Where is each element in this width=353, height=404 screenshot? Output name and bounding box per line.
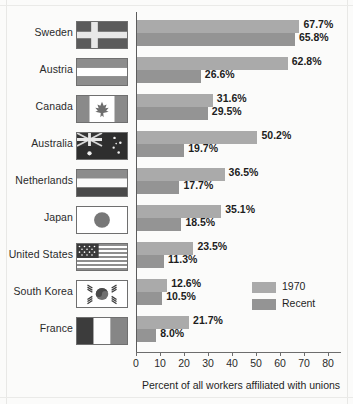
union-membership-bar-chart: Sweden 67.7%65.8%Austria 62.8%26.6%Canad…	[0, 0, 353, 404]
bar-value-1970: 35.1%	[225, 203, 255, 215]
legend-label-recent: Recent	[282, 297, 315, 309]
bar-recent	[137, 255, 164, 268]
bar-value-1970: 36.5%	[229, 166, 259, 178]
bar-value-1970: 23.5%	[197, 240, 227, 252]
x-tick-label: 40	[226, 357, 238, 369]
x-axis-title: Percent of all workers affiliated with u…	[136, 379, 346, 391]
chart-row: France 21.7%8.0%	[0, 312, 353, 349]
bar-value-recent: 29.5%	[212, 105, 242, 117]
chart-row: Netherlands 36.5%17.7%	[0, 164, 353, 201]
country-label: Sweden	[0, 26, 73, 38]
chart-row: Australia 50.2%19.7%	[0, 127, 353, 164]
chart-row: Japan 35.1%18.5%	[0, 201, 353, 238]
bar-1970	[137, 20, 299, 33]
bar-recent	[137, 144, 184, 157]
x-tick	[280, 352, 281, 356]
x-tick-label: 60	[274, 357, 286, 369]
bar-recent	[137, 218, 181, 231]
bar-value-recent: 26.6%	[205, 68, 235, 80]
chart-row: United States 23.5%11.3%	[0, 238, 353, 275]
bar-recent	[137, 329, 156, 342]
bar-recent	[137, 181, 179, 194]
x-tick	[136, 352, 137, 356]
bar-value-recent: 18.5%	[185, 216, 215, 228]
bar-value-1970: 62.8%	[292, 55, 322, 67]
country-label: Australia	[0, 137, 73, 149]
bar-recent	[137, 107, 208, 120]
x-tick	[184, 352, 185, 356]
country-label: Netherlands	[0, 174, 73, 186]
flag-canada-icon	[76, 95, 128, 123]
x-tick	[232, 352, 233, 356]
x-tick	[256, 352, 257, 356]
bar-value-recent: 11.3%	[168, 253, 197, 265]
flag-france-icon	[76, 317, 128, 345]
x-tick	[304, 352, 305, 356]
flag-south-korea-icon	[76, 280, 128, 308]
country-label: Japan	[0, 211, 73, 223]
x-tick	[328, 352, 329, 356]
country-label: Canada	[0, 100, 73, 112]
bar-value-1970: 12.6%	[171, 277, 201, 289]
flag-austria-icon	[76, 58, 128, 86]
x-tick-label: 80	[322, 357, 334, 369]
bar-value-recent: 65.8%	[299, 31, 329, 43]
flag-netherlands-icon	[76, 169, 128, 197]
legend-label-1970: 1970	[282, 280, 305, 292]
country-label: Austria	[0, 63, 73, 75]
country-label: United States	[0, 248, 73, 260]
bar-1970	[137, 279, 167, 292]
legend-swatch-recent	[252, 299, 276, 310]
x-axis-line	[136, 352, 341, 353]
bar-value-1970: 67.7%	[303, 18, 333, 30]
legend-swatch-1970	[252, 282, 276, 293]
x-tick-label: 50	[250, 357, 262, 369]
bar-recent	[137, 33, 295, 46]
flag-japan-icon	[76, 206, 128, 234]
bar-value-1970: 50.2%	[261, 129, 291, 141]
bar-value-recent: 8.0%	[160, 327, 184, 339]
chart-row: Austria 62.8%26.6%	[0, 53, 353, 90]
flag-sweden-icon	[76, 21, 128, 49]
flag-united-states-icon	[76, 243, 128, 271]
bar-value-recent: 17.7%	[183, 179, 213, 191]
bar-value-1970: 21.7%	[193, 314, 223, 326]
x-tick	[160, 352, 161, 356]
x-tick-label: 30	[202, 357, 214, 369]
bar-value-1970: 31.6%	[217, 92, 247, 104]
bar-value-recent: 10.5%	[166, 290, 196, 302]
flag-australia-icon	[76, 132, 128, 160]
x-tick-label: 70	[298, 357, 310, 369]
bar-recent	[137, 70, 201, 83]
x-tick	[208, 352, 209, 356]
bar-1970	[137, 94, 213, 107]
chart-row: Sweden 67.7%65.8%	[0, 16, 353, 53]
x-tick-label: 10	[154, 357, 166, 369]
bar-value-recent: 19.7%	[188, 142, 218, 154]
x-tick-label: 0	[133, 357, 139, 369]
x-tick-label: 20	[178, 357, 190, 369]
country-label: South Korea	[0, 285, 73, 297]
chart-row: Canada 31.6%29.5%	[0, 90, 353, 127]
bar-recent	[137, 292, 162, 305]
country-label: France	[0, 322, 73, 334]
